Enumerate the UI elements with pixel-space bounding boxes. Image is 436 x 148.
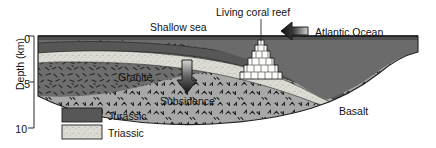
legend: [62, 108, 102, 139]
axis-tick-5: 5: [14, 78, 30, 90]
label-shallow-sea: Shallow sea: [150, 22, 207, 33]
axis-tick-0: 0: [14, 33, 30, 45]
legend-label-triassic: Triassic: [108, 128, 144, 139]
legend-swatch-triassic: [62, 125, 102, 139]
label-subsidence: Subsidence: [160, 96, 215, 107]
label-living-coral-reef: Living coral reef: [216, 7, 290, 18]
label-basalt: Basalt: [339, 106, 368, 117]
legend-label-jurassic: Jurassic: [108, 111, 147, 122]
geological-cross-section-figure: [0, 0, 436, 148]
axis-tick-10: 10: [11, 123, 27, 135]
label-atlantic-ocean: Atlantic Ocean: [315, 27, 383, 38]
legend-swatch-jurassic: [62, 108, 102, 122]
cross-section-body: [30, 30, 430, 140]
label-granite: Granite: [118, 72, 152, 83]
